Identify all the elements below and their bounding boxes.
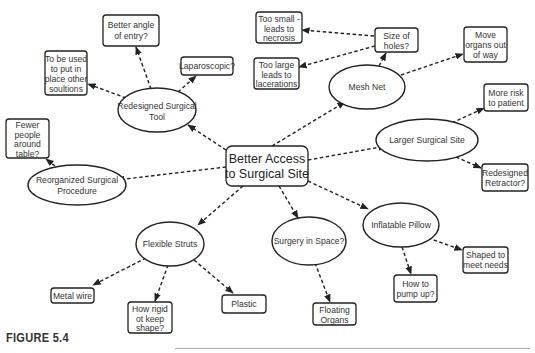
edge-mesh-move <box>401 54 463 75</box>
node-flexible-struts: Flexible Struts <box>136 222 204 266</box>
node-text: Fewer <box>16 120 40 130</box>
edge-center-pillow <box>308 181 368 209</box>
node-text: Too small - <box>258 14 300 24</box>
node-text: Size of <box>383 31 410 41</box>
edge-larger-risk <box>452 108 484 123</box>
node-text: Redesigned <box>482 168 528 178</box>
edge-center-struts <box>198 186 243 225</box>
concept-map: Better Access to Surgical Site Redesigne… <box>0 0 535 353</box>
node-text: Shaped to <box>466 250 505 260</box>
edge-tool-angle <box>136 47 151 89</box>
node-text: Reorganized Surgical <box>36 175 118 185</box>
node-text: pump up? <box>396 289 434 299</box>
node-text: More risk <box>488 88 524 98</box>
node-size-of-holes: Size of holes? <box>375 28 418 52</box>
node-text: organs out <box>465 40 506 50</box>
node-text: Floating <box>319 305 350 315</box>
node-better-angle: Better angle of entry? <box>103 15 159 46</box>
node-floating-organs: Floating Organs <box>313 303 356 325</box>
edge-struts-metal <box>93 258 146 285</box>
node-more-risk: More risk to patient <box>484 84 528 111</box>
node-text: Plastic <box>231 299 257 309</box>
edge-space-floating <box>315 263 330 302</box>
node-text: lacerations <box>256 79 298 89</box>
edge-mesh-holes <box>379 53 386 66</box>
node-text: Redesigned Surgical <box>117 101 196 111</box>
node-fewer-people: Fewer people around table? <box>6 119 49 159</box>
node-text: Procedure <box>57 186 97 196</box>
node-too-small: Too small - leads to necrosis <box>256 12 302 43</box>
node-pump-up: How to pump up? <box>394 275 437 302</box>
node-laparoscopic: Laparoscopic? <box>179 57 235 75</box>
node-move-organs: Move organs out of way <box>464 27 507 62</box>
node-redesigned-surgical-tool: Redesigned Surgical Tool <box>117 88 196 132</box>
node-text: Inflatable Pillow <box>371 220 432 230</box>
node-center: Better Access to Surgical Site <box>225 146 309 186</box>
node-text: table? <box>16 149 40 159</box>
figure-caption: FIGURE 5.4 <box>6 331 69 345</box>
node-text: Retractor? <box>485 178 525 188</box>
node-inflatable-pillow: Inflatable Pillow <box>363 203 439 247</box>
node-text: How rigid <box>132 304 168 314</box>
node-text: Laparoscopic? <box>179 61 235 71</box>
node-how-rigid: How rigid ot keep shape? <box>128 302 172 333</box>
center-line-1: Better Access <box>229 152 305 166</box>
edge-center-space <box>279 186 298 218</box>
edge-center-mesh <box>272 102 345 146</box>
node-text: To be used <box>45 54 87 64</box>
node-text: place other <box>45 74 88 84</box>
node-text: meet needs <box>463 260 508 270</box>
node-too-large: Too large leads to lacerations <box>254 58 299 89</box>
node-reorganized-procedure: Reorganized Surgical Procedure <box>28 165 126 205</box>
edge-pillow-shaped <box>428 238 462 250</box>
edge-holes-toosmall <box>302 30 374 36</box>
edge-tool-tobeused <box>88 84 126 98</box>
edge-struts-plastic <box>194 260 233 293</box>
edge-center-tool <box>188 125 226 150</box>
node-text: Metal wire <box>53 291 92 301</box>
node-text: Larger Surgical Site <box>389 135 465 145</box>
node-redesigned-retractor: Redesigned Retractor? <box>482 164 528 191</box>
edge-reorg-fewer <box>46 159 55 166</box>
edge-tool-lap <box>178 76 196 92</box>
node-plastic: Plastic <box>222 295 266 313</box>
node-text: Flexible Struts <box>143 239 197 249</box>
edge-pillow-pump <box>402 247 411 274</box>
edge-center-reorg <box>117 167 226 180</box>
node-text: Too large <box>259 60 295 70</box>
center-line-2: to Surgical Site <box>225 167 309 181</box>
edge-holes-toolarge <box>299 46 375 67</box>
node-text: of way <box>473 50 499 60</box>
node-text: holes? <box>384 41 410 51</box>
node-text: to patient <box>488 98 524 108</box>
node-text: Better angle <box>108 20 155 30</box>
node-text: How to <box>402 279 429 289</box>
node-text: to put in <box>51 64 82 74</box>
node-text: shape? <box>136 323 164 333</box>
node-to-be-used: To be used to put in place other soultio… <box>45 51 88 95</box>
node-text: of entry? <box>114 31 148 41</box>
node-metal-wire: Metal wire <box>51 288 94 303</box>
edge-center-larger <box>308 146 386 160</box>
edge-struts-rigid <box>155 265 168 301</box>
node-text: Surgery in Space? <box>274 236 345 246</box>
node-larger-surgical-site: Larger Surgical Site <box>376 119 478 161</box>
node-shaped-to-meet-needs: Shaped to meet needs <box>463 247 508 273</box>
node-text: necrosis <box>263 33 295 43</box>
node-surgery-in-space: Surgery in Space? <box>272 217 346 265</box>
node-text: Move <box>475 30 496 40</box>
node-text: Organs <box>320 315 348 325</box>
node-text: around <box>14 139 41 149</box>
node-text: soultions <box>49 84 83 94</box>
node-mesh-net: Mesh Net <box>329 65 405 109</box>
node-text: Mesh Net <box>349 82 386 92</box>
node-text: Tool <box>149 112 165 122</box>
caption-divider <box>175 348 530 349</box>
edge-larger-retractor <box>456 157 481 168</box>
